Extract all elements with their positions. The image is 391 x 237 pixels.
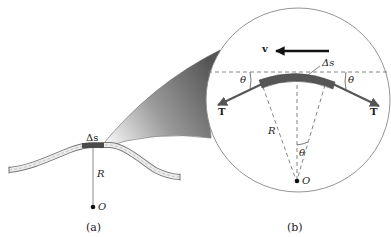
center-label-a: O	[98, 202, 106, 212]
tension-left-label: T	[218, 107, 225, 117]
zoom-cone	[100, 50, 220, 148]
center-point-b	[295, 179, 300, 184]
rope-panel-a	[9, 145, 180, 181]
caption-a: (a)	[86, 222, 101, 233]
theta-left-label: θ	[240, 75, 246, 85]
radius-label-a: R	[97, 169, 105, 179]
pulse-on-string-diagram: Δs R O (a) v Δs θ θ T T R θ O (b)	[0, 0, 391, 237]
magnifier-circle	[206, 8, 390, 192]
center-point-a	[91, 205, 96, 210]
delta-s-label-a: Δs	[86, 133, 98, 143]
velocity-label: v	[262, 44, 268, 54]
theta-right-label: θ	[348, 75, 354, 85]
theta-center-label: θ	[299, 148, 305, 158]
tension-right-label: T	[370, 107, 377, 117]
radius-label-b: R	[268, 126, 276, 136]
delta-s-label-b: Δs	[322, 58, 334, 68]
caption-b: (b)	[287, 222, 303, 233]
center-label-b: O	[302, 176, 310, 186]
